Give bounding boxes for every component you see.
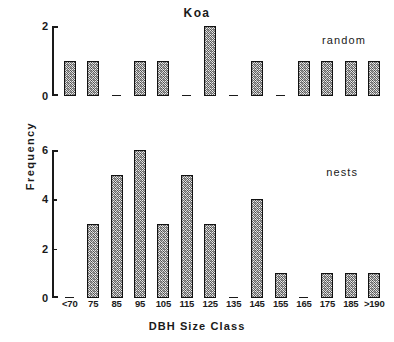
bar bbox=[112, 95, 121, 96]
y-tick-label-random-2: 2 bbox=[42, 20, 48, 32]
bar-slot bbox=[105, 26, 128, 96]
bar bbox=[204, 224, 216, 298]
bar bbox=[368, 61, 380, 96]
x-tick-label: 85 bbox=[105, 298, 128, 309]
series-annotation-random: random bbox=[322, 34, 366, 46]
x-tick-label: 175 bbox=[316, 298, 339, 309]
bar bbox=[182, 95, 191, 96]
x-tick-label: 95 bbox=[128, 298, 151, 309]
bar-slot bbox=[58, 150, 81, 298]
bar bbox=[134, 61, 146, 96]
bar bbox=[87, 61, 99, 96]
bar bbox=[134, 150, 146, 298]
bar-slot bbox=[269, 26, 292, 96]
bar-slot bbox=[292, 26, 315, 96]
bar bbox=[87, 224, 99, 298]
bar bbox=[321, 61, 333, 96]
bar-slot bbox=[81, 150, 104, 298]
y-tick-label-nests-2: 2 bbox=[42, 243, 48, 255]
bar-slot bbox=[128, 150, 151, 298]
bar-slot bbox=[128, 26, 151, 96]
x-tick-label: >190 bbox=[362, 298, 385, 309]
y-axis-title: Frequency bbox=[24, 82, 36, 230]
y-tick-label-random-0: 0 bbox=[42, 90, 48, 102]
bar bbox=[275, 273, 287, 298]
panel-nests: 6 4 2 0 nests bbox=[52, 150, 386, 298]
bar-slot bbox=[105, 150, 128, 298]
x-axis-title: DBH Size Class bbox=[0, 320, 394, 332]
bar bbox=[251, 199, 263, 298]
x-tick-label: 145 bbox=[245, 298, 268, 309]
bar bbox=[157, 224, 169, 298]
x-tick-label-group: <70758595105115125135145155165175185>190 bbox=[52, 298, 386, 309]
bar bbox=[229, 95, 238, 96]
x-tick-label: 155 bbox=[269, 298, 292, 309]
bar-slot bbox=[199, 150, 222, 298]
bar-slot bbox=[362, 150, 385, 298]
figure-title: Koa bbox=[0, 6, 394, 20]
bar bbox=[111, 175, 123, 298]
bar-slot bbox=[175, 26, 198, 96]
bar-slot bbox=[245, 150, 268, 298]
y-tick-label-nests-6: 6 bbox=[42, 144, 48, 156]
x-tick-label: <70 bbox=[58, 298, 81, 309]
y-tick-label-nests-0: 0 bbox=[42, 292, 48, 304]
panel-random: 2 0 random bbox=[52, 26, 386, 96]
x-tick-label: 135 bbox=[222, 298, 245, 309]
bar-slot bbox=[222, 26, 245, 96]
bar-slot bbox=[269, 150, 292, 298]
bar bbox=[298, 61, 310, 96]
bar bbox=[345, 273, 357, 298]
bar bbox=[321, 273, 333, 298]
x-tick-label: 165 bbox=[292, 298, 315, 309]
bar bbox=[64, 61, 76, 96]
bar bbox=[276, 95, 285, 96]
bar bbox=[251, 61, 263, 96]
bar bbox=[204, 26, 216, 96]
series-annotation-nests: nests bbox=[326, 166, 358, 178]
bar-slot bbox=[292, 150, 315, 298]
bar-slot bbox=[175, 150, 198, 298]
x-tick-label: 185 bbox=[339, 298, 362, 309]
x-tick-label: 115 bbox=[175, 298, 198, 309]
histogram-figure: Koa 2 0 random 6 4 2 0 nests bbox=[0, 0, 394, 342]
bar-slot bbox=[199, 26, 222, 96]
bar bbox=[345, 61, 357, 96]
x-tick-label: 125 bbox=[199, 298, 222, 309]
bar-slot bbox=[58, 26, 81, 96]
bar-slot bbox=[152, 150, 175, 298]
x-tick-label: 105 bbox=[152, 298, 175, 309]
bar bbox=[157, 61, 169, 96]
y-tick-label-nests-4: 4 bbox=[42, 193, 48, 205]
bar-slot bbox=[152, 26, 175, 96]
x-tick-label: 75 bbox=[81, 298, 104, 309]
bar-slot bbox=[222, 150, 245, 298]
bar-slot bbox=[245, 26, 268, 96]
x-axis: <70758595105115125135145155165175185>190 bbox=[52, 298, 386, 316]
bar-slot bbox=[81, 26, 104, 96]
bar bbox=[181, 175, 193, 298]
bar bbox=[368, 273, 380, 298]
